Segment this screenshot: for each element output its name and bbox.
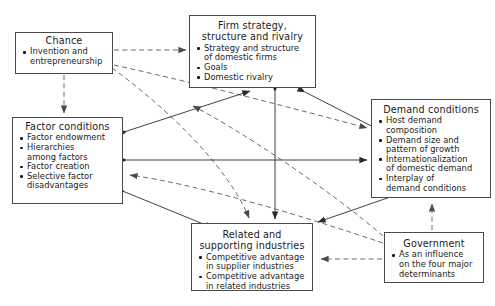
node-government[interactable]: Government As an influence on the four m… (384, 232, 484, 283)
node-related-supporting-industries-bullets: Competitive advantage in supplier indust… (192, 253, 312, 293)
node-factor-conditions-title: Factor conditions (13, 118, 122, 133)
edge-factor-conditions-firm-strategy (127, 91, 250, 131)
node-demand-conditions[interactable]: Demand conditions Host demand compositio… (371, 99, 491, 198)
list-item: Internationalization of domestic demand (377, 155, 487, 174)
node-firm-strategy[interactable]: Firm strategy, structure and rivalry Str… (189, 15, 316, 88)
node-firm-strategy-title: Firm strategy, structure and rivalry (190, 16, 315, 44)
node-demand-conditions-bullets: Host demand composition Demand size and … (372, 116, 490, 195)
node-chance-bullets: Invention and entrepreneurship (16, 47, 112, 68)
list-item: Strategy and structure of domestic firms (195, 44, 312, 63)
node-firm-strategy-bullets: Strategy and structure of domestic firms… (190, 44, 315, 84)
edge-demand-conditions-related-supporting (318, 194, 399, 222)
edge-government-to-firm-strategy (193, 106, 383, 236)
node-demand-conditions-title: Demand conditions (372, 100, 490, 116)
node-government-bullets: As an influence on the four major determ… (385, 250, 483, 281)
list-item: Hierarchies among factors (18, 143, 119, 162)
node-related-supporting-industries[interactable]: Related and supporting industries Compet… (191, 223, 313, 291)
node-related-supporting-industries-title: Related and supporting industries (192, 224, 312, 253)
list-item: Invention and entrepreneurship (21, 47, 109, 66)
list-item: As an influence on the four major determ… (390, 250, 480, 279)
list-item: Interplay of demand conditions (377, 174, 487, 193)
node-government-title: Government (385, 233, 483, 250)
list-item: Selective factor disadvantages (18, 172, 119, 191)
diagram-canvas: Chance Invention and entrepreneurship Fa… (0, 0, 495, 306)
list-item: Competitive advantage in related industr… (197, 272, 309, 291)
list-item: Demand size and pattern of growth (377, 136, 487, 155)
list-item: Domestic rivalry (195, 73, 312, 83)
node-chance-title: Chance (16, 33, 112, 47)
list-item: Competitive advantage in supplier indust… (197, 253, 309, 272)
node-chance[interactable]: Chance Invention and entrepreneurship (15, 32, 113, 74)
list-item: Host demand composition (377, 116, 487, 135)
node-factor-conditions-bullets: Factor endowment Hierarchies among facto… (13, 133, 122, 193)
node-factor-conditions[interactable]: Factor conditions Factor endowment Hiera… (12, 117, 123, 204)
